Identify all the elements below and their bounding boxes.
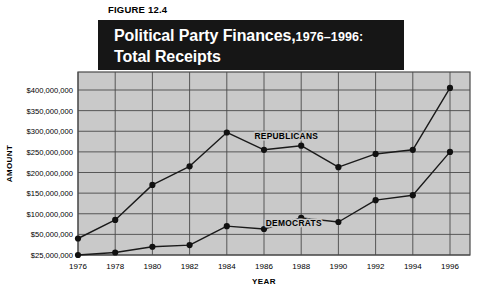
x-axis-tick-label: 1984 (218, 262, 236, 271)
data-point (335, 164, 341, 170)
x-axis-tick-label: 1992 (367, 262, 385, 271)
x-axis-tick-label: 1994 (404, 262, 422, 271)
data-point (75, 252, 81, 258)
y-axis-tick-label: $300,000,000 (27, 127, 73, 136)
x-axis-title: YEAR (252, 277, 276, 286)
x-axis-tick-label: 1978 (106, 262, 124, 271)
data-point (112, 249, 118, 255)
series-label: DEMOCRATS (266, 218, 322, 228)
chart-area: $25,000,000$50,000,000$100,000,000$150,0… (0, 0, 492, 290)
data-point (373, 151, 379, 157)
y-axis-tick-label: $350,000,000 (27, 107, 73, 116)
data-point (447, 85, 453, 91)
data-point (261, 147, 267, 153)
y-axis-tick-label: $100,000,000 (27, 210, 73, 219)
x-axis-tick-label: 1996 (441, 262, 459, 271)
data-point (298, 143, 304, 149)
x-axis-tick-label: 1986 (255, 262, 273, 271)
data-point (410, 147, 416, 153)
data-point (224, 223, 230, 229)
y-axis-tick-label: $400,000,000 (27, 86, 73, 95)
figure-container: FIGURE 12.4 Political Party Finances,197… (0, 0, 492, 290)
data-point (410, 192, 416, 198)
y-axis-tick-label: $50,000,000 (31, 230, 73, 239)
series-label: REPUBLICANS (254, 131, 318, 141)
x-axis-tick-label: 1980 (144, 262, 162, 271)
data-point (335, 219, 341, 225)
y-axis-tick-label: $250,000,000 (27, 148, 73, 157)
x-axis-tick-label: 1990 (330, 262, 348, 271)
x-axis-tick-label: 1976 (69, 262, 87, 271)
data-point (187, 163, 193, 169)
data-point (112, 217, 118, 223)
data-point (149, 182, 155, 188)
y-axis-tick-label: $150,000,000 (27, 189, 73, 198)
line-chart: $25,000,000$50,000,000$100,000,000$150,0… (0, 0, 492, 290)
y-axis-title: AMOUNT (5, 145, 14, 183)
x-axis-tick-label: 1982 (181, 262, 199, 271)
x-axis-tick-label: 1988 (292, 262, 310, 271)
data-point (187, 242, 193, 248)
y-axis-tick-label: $25,000,000 (31, 251, 73, 260)
y-axis-tick-label: $200,000,000 (27, 169, 73, 178)
data-point (149, 244, 155, 250)
data-point (224, 129, 230, 135)
data-point (75, 235, 81, 241)
data-point (447, 149, 453, 155)
data-point (373, 197, 379, 203)
